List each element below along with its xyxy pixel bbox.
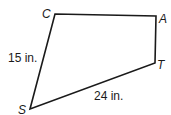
vertex-label-a: A [158, 12, 167, 26]
side-length-st: 24 in. [94, 89, 123, 103]
vertex-label-c: C [42, 7, 51, 21]
vertex-label-s: S [18, 103, 26, 115]
quadrilateral-cats [30, 14, 156, 109]
side-length-cs: 15 in. [8, 51, 37, 65]
quadrilateral-diagram: C A T S 15 in. 24 in. [0, 0, 171, 115]
vertex-label-t: T [157, 58, 166, 72]
